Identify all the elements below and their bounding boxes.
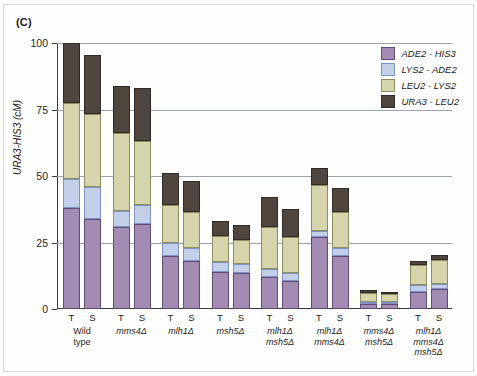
x-tick-s: S: [84, 312, 101, 323]
bar-segment-s2: [311, 231, 328, 238]
legend-swatch-s2: [381, 63, 395, 76]
stacked-bar[interactable]: [183, 181, 200, 309]
bar-segment-s0: [84, 55, 101, 114]
genotype-line: mlh1Δ: [153, 326, 209, 337]
bar-segment-s3: [212, 272, 229, 309]
panel-label: (C): [16, 16, 32, 28]
genotype-label: Wildtype: [54, 326, 110, 347]
x-tick-s: S: [431, 312, 448, 323]
bar-segment-s3: [410, 292, 427, 309]
bar-segment-s1: [212, 236, 229, 263]
bar-segment-s1: [431, 260, 448, 284]
x-tick-t: T: [360, 312, 377, 323]
x-tick-s: S: [282, 312, 299, 323]
bar-segment-s1: [162, 205, 179, 242]
legend-swatch-s0: [381, 95, 395, 108]
bar-segment-s2: [162, 243, 179, 256]
stacked-bar[interactable]: [332, 188, 349, 309]
stacked-bar[interactable]: [113, 86, 130, 309]
bar-segment-s3: [311, 237, 328, 309]
bar-segment-s1: [134, 141, 151, 205]
bar-segment-s3: [282, 281, 299, 309]
bar-segment-s1: [332, 212, 349, 248]
stacked-bar[interactable]: [410, 261, 427, 309]
stacked-bar[interactable]: [311, 168, 328, 309]
stacked-bar[interactable]: [233, 225, 250, 309]
bar-segment-s1: [63, 103, 80, 179]
stacked-bar[interactable]: [162, 173, 179, 309]
bar-segment-s1: [261, 227, 278, 270]
bar-segment-s2: [261, 269, 278, 277]
bar-segment-s2: [282, 273, 299, 281]
bar-segment-s1: [84, 114, 101, 187]
legend-label: LYS2 - ADE2: [401, 64, 456, 75]
genotype-label: mlh1Δmms4Δ: [302, 326, 358, 347]
x-tick-t: T: [162, 312, 179, 323]
x-tick-t: T: [311, 312, 328, 323]
x-tick-t: T: [410, 312, 427, 323]
bar-segment-s0: [134, 88, 151, 141]
genotype-line: mlh1Δ: [302, 326, 358, 337]
stacked-bar[interactable]: [261, 197, 278, 309]
bar-segment-s2: [63, 179, 80, 208]
genotype-label: msh5Δ: [203, 326, 259, 337]
bar-segment-s1: [233, 240, 250, 264]
legend-swatch-s1: [381, 79, 395, 92]
x-tick-t: T: [212, 312, 229, 323]
stacked-bar[interactable]: [63, 43, 80, 309]
y-axis-title: URA3-HIS3 (cM): [12, 100, 23, 175]
bar-segment-s3: [261, 277, 278, 309]
genotype-line: mlh1Δ: [401, 326, 457, 337]
x-tick-s: S: [381, 312, 398, 323]
bar-segment-s2: [134, 205, 151, 224]
bar-segment-s0: [261, 197, 278, 226]
bar-segment-s2: [410, 285, 427, 292]
bar-segment-s2: [212, 262, 229, 271]
bar-segment-s3: [183, 261, 200, 309]
stacked-bar[interactable]: [282, 209, 299, 309]
bar-segment-s3: [63, 208, 80, 309]
bar-segment-s3: [134, 224, 151, 309]
bar-segment-s0: [63, 43, 80, 103]
genotype-label: mlh1Δ: [153, 326, 209, 337]
bar-segment-s3: [360, 304, 377, 309]
genotype-line: mms4Δ: [351, 326, 407, 337]
stacked-bar[interactable]: [134, 88, 151, 309]
genotype-line: Wild: [54, 326, 110, 337]
bar-segment-s3: [113, 227, 130, 309]
stacked-bar[interactable]: [381, 292, 398, 309]
bar-segment-s1: [183, 212, 200, 248]
bar-segment-s2: [332, 248, 349, 256]
bar-segment-s2: [113, 211, 130, 227]
bar-segment-s3: [233, 273, 250, 309]
bar-segment-s0: [282, 209, 299, 237]
legend-label: URA3 - LEU2: [401, 96, 459, 107]
bar-segment-s2: [233, 264, 250, 273]
stacked-bar[interactable]: [84, 55, 101, 309]
genotype-line: msh5Δ: [401, 347, 457, 358]
bar-segment-s3: [84, 219, 101, 309]
legend-label: ADE2 - HIS3: [401, 48, 455, 59]
bar-segment-s0: [311, 168, 328, 185]
genotype-line: msh5Δ: [351, 337, 407, 348]
y-tick-label-0: 0: [42, 303, 48, 315]
stacked-bar[interactable]: [212, 221, 229, 309]
bar-segment-s1: [311, 185, 328, 230]
stacked-bar[interactable]: [360, 290, 377, 309]
bar-segment-s2: [84, 187, 101, 219]
genotype-line: msh5Δ: [252, 337, 308, 348]
genotype-line: mms4Δ: [104, 326, 160, 337]
bar-segment-s0: [233, 225, 250, 240]
figure-panel-c: (C) URA3-HIS3 (cM) 0255075100 TSWildtype…: [0, 0, 477, 376]
genotype-label: mms4Δmsh5Δ: [351, 326, 407, 347]
bar-segment-s2: [183, 248, 200, 261]
y-tick-label-75: 75: [36, 104, 48, 116]
bar-segment-s3: [162, 256, 179, 309]
bar-segment-s0: [113, 86, 130, 134]
stacked-bar[interactable]: [431, 255, 448, 310]
bar-segment-s3: [431, 289, 448, 309]
bar-segment-s1: [360, 293, 377, 302]
genotype-line: msh5Δ: [203, 326, 259, 337]
legend-item: ADE2 - HIS3: [381, 46, 459, 61]
x-tick-t: T: [261, 312, 278, 323]
